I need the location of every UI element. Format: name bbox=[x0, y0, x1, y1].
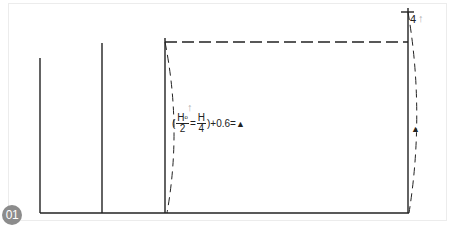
triangle-marker-icon: ▲ bbox=[236, 119, 245, 129]
top-right-arrow-up-icon: ↑ bbox=[418, 12, 424, 24]
frame-border bbox=[9, 4, 447, 221]
top-right-measure-label: 4 bbox=[410, 13, 416, 25]
frac2-denominator: 4 bbox=[199, 124, 205, 134]
arrow-up-icon: ↑ bbox=[187, 101, 193, 113]
formula-equals: = bbox=[190, 118, 196, 129]
diagram-canvas: ↑ ( Ho 2 = H 4 )+0.6= ▲ 4 ↑ ▲ 01 bbox=[0, 0, 450, 226]
fraction-h-over-2: Ho 2 bbox=[176, 113, 189, 134]
fraction-h-over-4: H 4 bbox=[197, 113, 206, 134]
frac1-denominator: 2 bbox=[180, 124, 186, 134]
dashed-curve-right bbox=[408, 12, 417, 213]
formula-tail: )+0.6= bbox=[207, 118, 236, 129]
formula-label: ( Ho 2 = H 4 )+0.6= ▲ bbox=[172, 113, 245, 134]
frac1-numerator: H bbox=[177, 112, 184, 123]
formula-open-paren: ( bbox=[172, 118, 175, 129]
right-triangle-marker-icon: ▲ bbox=[411, 124, 420, 134]
step-number-badge: 01 bbox=[2, 205, 22, 225]
frac1-superscript: o bbox=[185, 114, 188, 120]
